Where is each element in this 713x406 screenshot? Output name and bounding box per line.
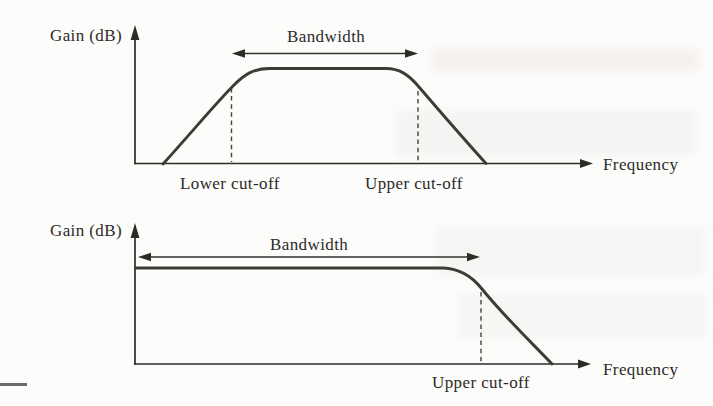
bandwidth-arrow-right-icon bbox=[405, 49, 418, 57]
lower-cutoff-label: Lower cut-off bbox=[180, 174, 280, 193]
frequency-axis-label: Frequency bbox=[603, 155, 678, 174]
y-axis-arrow-icon bbox=[131, 223, 140, 238]
lowpass-gain-curve bbox=[136, 268, 553, 364]
bandwidth-arrow-left-icon bbox=[138, 253, 151, 261]
frequency-axis-label: Frequency bbox=[603, 360, 678, 379]
bandwidth-arrow-right-icon bbox=[467, 253, 480, 261]
page-footer-rule bbox=[0, 383, 27, 386]
gain-axis-label: Gain (dB) bbox=[50, 221, 122, 240]
x-axis-arrow-icon bbox=[580, 159, 593, 168]
scanned-textbook-figure: Gain (dB) Bandwidth Lower cut-off Upper … bbox=[0, 0, 713, 406]
gain-axis-label: Gain (dB) bbox=[50, 26, 122, 45]
bandpass-gain-curve bbox=[163, 69, 486, 165]
bandwidth-label: Bandwidth bbox=[287, 27, 365, 46]
bandpass-response-figure: Gain (dB) Bandwidth Lower cut-off Upper … bbox=[0, 0, 713, 203]
bandwidth-arrow-left-icon bbox=[232, 49, 245, 57]
lowpass-response-figure: Gain (dB) Bandwidth Upper cut-off Freque… bbox=[0, 203, 713, 406]
y-axis-arrow-icon bbox=[131, 25, 140, 40]
upper-cutoff-label: Upper cut-off bbox=[365, 174, 463, 193]
bandwidth-label: Bandwidth bbox=[270, 235, 348, 254]
upper-cutoff-label: Upper cut-off bbox=[432, 373, 530, 392]
x-axis-arrow-icon bbox=[578, 360, 591, 369]
